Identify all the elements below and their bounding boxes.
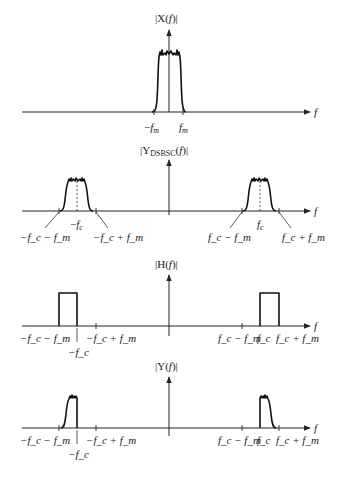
- leader-neg-fc-plus-fm: [96, 212, 108, 228]
- label-neg-fc-plus-fm: −f_c + f_m: [86, 332, 136, 344]
- label-fc-plus-fm: f_c + f_m: [276, 434, 319, 446]
- label-fc-minus-fm: f_c − f_m: [218, 434, 261, 446]
- y-upper-sideband: [260, 395, 276, 428]
- label-neg-fc-plus-fm: −f_c + f_m: [93, 231, 143, 243]
- label-neg-fc-plus-fm: −f_c + f_m: [86, 434, 136, 446]
- y-panel-title: |Y(f)|: [155, 360, 178, 373]
- label-fc-minus-fm: f_c − f_m: [208, 231, 251, 243]
- y-lower-sideband: [61, 395, 77, 428]
- label-fc: f_c: [257, 332, 271, 344]
- label-neg-fc-minus-fm: −f_c − f_m: [20, 332, 70, 344]
- label-neg-fc: −f_c: [68, 448, 89, 460]
- label-fc: f_c: [257, 434, 271, 446]
- label-neg-fc: −fc: [70, 218, 83, 232]
- label-fc-minus-fm: f_c − f_m: [218, 332, 261, 344]
- panel-ydsbsc-spectrum: |YDSBSC(f)| f −fc fc −f_c − f_m −f_c + f…: [20, 144, 325, 243]
- label-fc: fc: [257, 218, 264, 232]
- label-fm: fm: [179, 121, 188, 135]
- panel-h-filter: |H(f)| f −f_c − f_m −f_c −f_c + f_m f_c …: [20, 258, 319, 358]
- ydsbsc-lower-lobe: [60, 178, 93, 211]
- ydsbsc-upper-lobe: [243, 178, 276, 211]
- panel-y-ssb-spectrum: |Y(f)| f −f_c − f_m −f_c −f_c + f_m f_c …: [20, 360, 319, 460]
- leader-fc-plus-fm: [279, 212, 291, 228]
- label-neg-fc-minus-fm: −f_c − f_m: [20, 231, 70, 243]
- x-axis-f-label: f: [314, 106, 319, 118]
- label-neg-fc-minus-fm: −f_c − f_m: [20, 434, 70, 446]
- label-neg-fc: −f_c: [68, 346, 89, 358]
- spectrum-diagram: |X(f)| f −fm fm |YDSBSC(f)| f −fc fc −f_…: [0, 0, 339, 479]
- x-panel-title: |X(f)|: [155, 12, 178, 25]
- ydsbsc-axis-f-label: f: [314, 205, 319, 217]
- h-panel-title: |H(f)|: [155, 258, 178, 271]
- label-neg-fm: −fm: [144, 121, 159, 135]
- panel-x-spectrum: |X(f)| f −fm fm: [22, 12, 319, 135]
- label-fc-plus-fm: f_c + f_m: [282, 231, 325, 243]
- h-upper-passband: [260, 293, 279, 326]
- ydsbsc-panel-title: |YDSBSC(f)|: [140, 144, 188, 158]
- h-lower-passband: [59, 293, 77, 326]
- leader-neg-fc-minus-fm: [45, 212, 59, 228]
- h-axis-f-label: f: [314, 320, 319, 332]
- y-axis-f-label: f: [314, 422, 319, 434]
- leader-fc-minus-fm: [230, 212, 242, 228]
- label-fc-plus-fm: f_c + f_m: [276, 332, 319, 344]
